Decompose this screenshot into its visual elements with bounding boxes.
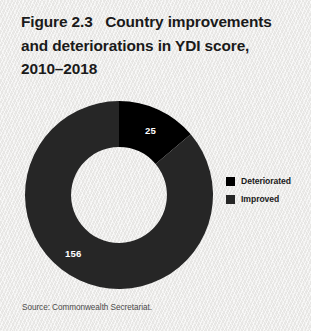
donut-graphic: 25 156 — [25, 101, 213, 289]
donut-chart: 25 156 Deteriorated Improved — [0, 92, 311, 297]
source-note: Source: Commonwealth Secretariat. — [22, 303, 152, 312]
legend-label-deteriorated: Deteriorated — [241, 176, 291, 186]
chart-legend: Deteriorated Improved — [226, 176, 310, 212]
figure-title: Figure 2.3 Country improvements and dete… — [21, 10, 299, 81]
figure-title-line-3: 2010–2018 — [21, 57, 299, 81]
legend-item-deteriorated[interactable]: Deteriorated — [226, 176, 310, 186]
donut-svg — [25, 101, 213, 289]
figure-page: Figure 2.3 Country improvements and dete… — [0, 0, 311, 331]
legend-label-improved: Improved — [241, 194, 279, 204]
legend-swatch-deteriorated — [226, 177, 235, 186]
donut-value-label-deteriorated: 25 — [145, 125, 156, 136]
legend-swatch-improved — [226, 195, 235, 204]
donut-slices — [25, 101, 213, 289]
donut-value-label-improved: 156 — [65, 248, 82, 259]
figure-title-line-1: Figure 2.3 Country improvements — [21, 10, 299, 34]
legend-item-improved[interactable]: Improved — [226, 194, 310, 204]
figure-title-line-2: and deteriorations in YDI score, — [21, 34, 299, 58]
